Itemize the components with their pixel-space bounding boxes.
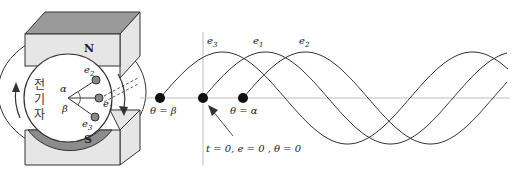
point-theta-alpha-icon bbox=[238, 93, 248, 103]
angle-beta-label: β bbox=[62, 103, 68, 114]
generator-illustration bbox=[0, 12, 146, 165]
coil-e3-label: e3 bbox=[82, 118, 92, 132]
coil-e2-label: e2 bbox=[84, 64, 94, 78]
theta-beta-label: θ = β bbox=[150, 105, 177, 116]
wave-label-e2: e2 bbox=[299, 35, 309, 49]
three-phase-generator-diagram: N S 전 기 자 e2 e1 e3 α β e3 e1 e2 θ = β θ … bbox=[0, 0, 522, 171]
coil-e1-icon bbox=[95, 94, 103, 102]
point-origin-icon bbox=[198, 93, 208, 103]
waveform-plot bbox=[140, 32, 510, 165]
point-theta-beta-icon bbox=[155, 93, 165, 103]
south-pole-label: S bbox=[84, 133, 92, 146]
origin-condition-label: t = 0, e = 0 , θ = 0 bbox=[206, 143, 301, 154]
coil-e1-label: e1 bbox=[103, 98, 113, 112]
armature-label: 전 기 자 bbox=[32, 78, 46, 123]
wave-label-e1: e1 bbox=[253, 35, 263, 49]
north-pole-label: N bbox=[84, 42, 94, 55]
theta-alpha-label: θ = α bbox=[230, 105, 258, 116]
origin-arrow-icon bbox=[208, 105, 218, 116]
wave-label-e3: e3 bbox=[207, 35, 217, 49]
angle-alpha-label: α bbox=[60, 83, 67, 94]
